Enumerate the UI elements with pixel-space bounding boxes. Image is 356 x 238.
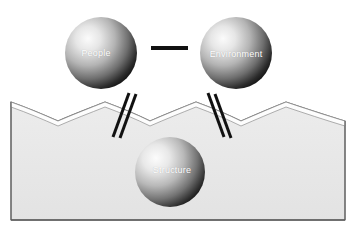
node-environment[interactable]	[200, 17, 272, 89]
diagram-svg	[0, 0, 356, 238]
structure-sphere[interactable]	[135, 137, 205, 207]
diagram-canvas: People Environment Structure	[0, 0, 356, 238]
node-structure[interactable]	[135, 137, 205, 207]
environment-sphere[interactable]	[200, 17, 272, 89]
people-sphere[interactable]	[65, 17, 137, 89]
node-people[interactable]	[65, 17, 137, 89]
